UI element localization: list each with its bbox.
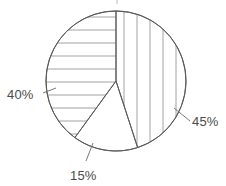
pie-slice-40 bbox=[44, 11, 188, 147]
pie-slice-45-outline bbox=[116, 11, 186, 148]
pie-slice-15 bbox=[75, 81, 138, 151]
slice-label-40: 40% bbox=[7, 87, 34, 102]
pie-slice-45-hatching bbox=[46, 9, 176, 153]
slice-label-45: 45% bbox=[192, 114, 219, 129]
pie-slice-15-outline bbox=[75, 81, 138, 151]
pie-chart-figure: 40% 45% 15% bbox=[0, 0, 226, 186]
slice-label-15: 15% bbox=[70, 168, 97, 183]
leader-line-40 bbox=[43, 88, 56, 93]
pie-chart-svg: 40% 45% 15% bbox=[0, 0, 226, 186]
